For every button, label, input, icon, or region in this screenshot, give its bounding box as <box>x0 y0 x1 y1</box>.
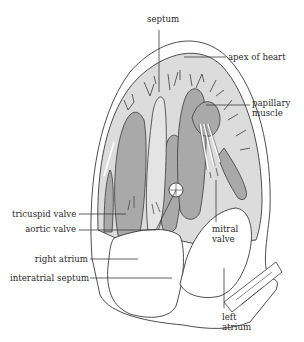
label-mitral-line2: valve <box>212 234 238 244</box>
label-interatrial-septum: interatrial septum <box>10 273 88 283</box>
label-left-line2: atrium <box>222 322 251 332</box>
label-septum: septum <box>147 14 179 24</box>
label-mitral-valve: mitral valve <box>212 224 238 244</box>
label-left-line1: left <box>222 312 251 322</box>
label-right-atrium: right atrium <box>12 254 88 264</box>
label-mitral-line1: mitral <box>212 224 238 234</box>
label-apex-of-heart: apex of heart <box>228 52 286 62</box>
label-left-atrium: left atrium <box>222 312 251 332</box>
label-papillary-line2: muscle <box>252 108 290 118</box>
heart-diagram: septum apex of heart papillary muscle tr… <box>0 0 304 342</box>
label-papillary-muscle: papillary muscle <box>252 98 290 118</box>
label-papillary-line1: papillary <box>252 98 290 108</box>
right-atrium-chamber <box>108 229 184 317</box>
label-aortic-valve: aortic valve <box>12 224 76 234</box>
label-tricuspid-valve: tricuspid valve <box>12 209 76 219</box>
